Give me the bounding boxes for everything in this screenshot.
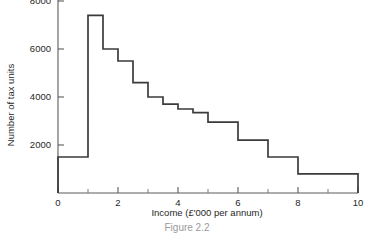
x-tick-label-10: 10 <box>353 197 364 208</box>
histogram-figure: 0246810 2000400060008000 Income (£'000 p… <box>0 0 375 233</box>
x-axis-title: Income (£'000 per annum) <box>151 207 262 218</box>
y-axis-tick-labels: 2000400060008000 <box>30 0 51 150</box>
histogram-outline <box>58 15 358 193</box>
y-tick-label-2000: 2000 <box>30 139 51 150</box>
x-tick-label-2: 2 <box>115 197 120 208</box>
figure-caption: Figure 2.2 <box>164 222 209 233</box>
y-axis-title: Number of tax units <box>5 64 16 147</box>
x-tick-label-0: 0 <box>55 197 60 208</box>
x-tick-label-8: 8 <box>295 197 300 208</box>
histogram-step-line <box>58 15 358 193</box>
y-tick-label-6000: 6000 <box>30 43 51 54</box>
y-tick-label-4000: 4000 <box>30 91 51 102</box>
chart-canvas: 0246810 2000400060008000 Income (£'000 p… <box>0 0 375 233</box>
y-tick-label-8000: 8000 <box>30 0 51 6</box>
